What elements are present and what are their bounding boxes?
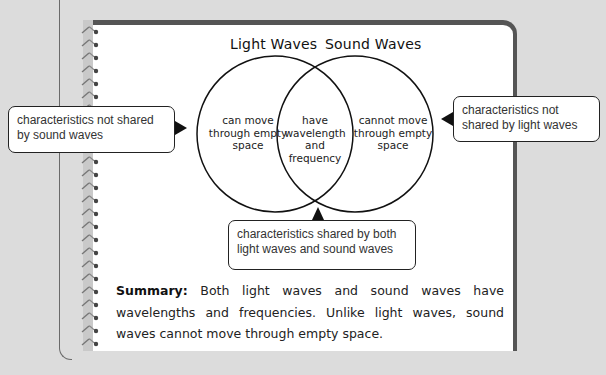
light-only-line: can move xyxy=(200,114,296,127)
overlap-line: and xyxy=(284,139,346,152)
overlap-line: frequency xyxy=(284,152,346,165)
right-pointer-arrow xyxy=(441,112,453,126)
left-pointer-arrow xyxy=(175,121,187,135)
overlap-line: wavelength xyxy=(284,127,346,140)
overlap-text: have wavelength and frequency xyxy=(284,114,346,164)
sound-only-line: through empty xyxy=(352,127,434,140)
callout-not-shared-by-light: characteristics not shared by light wave… xyxy=(453,96,600,142)
light-only-line: through empty xyxy=(200,127,296,140)
sound-only-line: cannot move xyxy=(352,114,434,127)
bottom-pointer-arrow xyxy=(312,207,324,220)
sound-waves-title: Sound Waves xyxy=(325,36,421,52)
light-waves-title: Light Waves xyxy=(230,36,317,52)
light-only-line: space xyxy=(200,139,296,152)
sound-only-text: cannot move through empty space xyxy=(352,114,434,152)
summary-label: Summary: xyxy=(116,283,188,298)
light-only-text: can move through empty space xyxy=(200,114,296,152)
summary-paragraph: Summary: Both light waves and sound wave… xyxy=(116,280,504,345)
callout-not-shared-by-sound: characteristics not shared by sound wave… xyxy=(8,106,175,153)
overlap-line: have xyxy=(284,114,346,127)
callout-shared-by-both: characteristics shared by both light wav… xyxy=(228,220,416,270)
sound-only-line: space xyxy=(352,139,434,152)
